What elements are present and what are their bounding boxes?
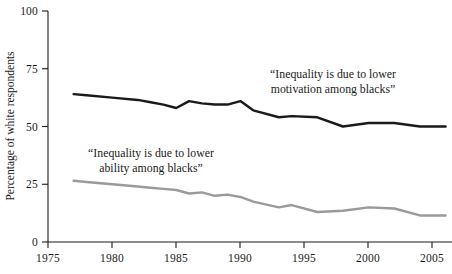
- series-line-motivation: [74, 94, 446, 126]
- x-tick-label-1990: 1990: [228, 252, 252, 264]
- y-tick-label-25: 25: [26, 178, 38, 190]
- x-tick-label-2005: 2005: [420, 252, 444, 264]
- annotation-motivation-line2: motivation among blacks”: [271, 82, 396, 96]
- x-axis: 1975 1980 1985 1990 1995 2000 2005: [36, 242, 452, 264]
- y-tick-label-0: 0: [32, 236, 38, 248]
- annotation-ability-line1: “Inequality is due to lower: [88, 146, 214, 160]
- y-axis-title: Percentage of white respondents: [4, 51, 17, 201]
- series-line-ability: [74, 181, 446, 216]
- x-tick-label-1995: 1995: [292, 252, 316, 264]
- annotations-group: “Inequality is due to lower motivation a…: [88, 67, 396, 175]
- y-tick-label-100: 100: [20, 5, 38, 17]
- chart-figure: 100 75 50 25 0 Percentage of white respo…: [0, 0, 452, 274]
- y-tick-label-50: 50: [26, 121, 38, 133]
- x-tick-label-2000: 2000: [356, 252, 380, 264]
- x-tick-label-1980: 1980: [100, 252, 124, 264]
- x-tick-label-1975: 1975: [36, 252, 60, 264]
- y-tick-label-75: 75: [26, 63, 38, 75]
- annotation-motivation-line1: “Inequality is due to lower: [270, 67, 396, 81]
- x-tick-label-1985: 1985: [164, 252, 188, 264]
- annotation-ability-line2: ability among blacks”: [99, 161, 203, 175]
- chart-canvas: 100 75 50 25 0 Percentage of white respo…: [0, 0, 452, 274]
- y-axis: 100 75 50 25 0 Percentage of white respo…: [4, 5, 48, 248]
